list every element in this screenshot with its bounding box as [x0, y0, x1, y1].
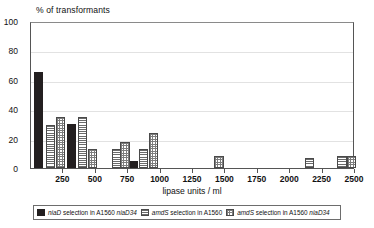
gridline [31, 82, 353, 83]
bar [78, 117, 87, 168]
plot-area [30, 22, 354, 169]
x-tick-label: 750 [120, 174, 134, 184]
x-tick-label: 2000 [280, 174, 299, 184]
x-tick-mark [322, 169, 323, 173]
x-tick-label: 2250 [312, 174, 331, 184]
y-tick-label: 100 [0, 18, 18, 26]
x-tick-mark [354, 169, 355, 173]
x-axis-label: lipase units / ml [30, 186, 354, 196]
bar [120, 142, 129, 168]
legend-item: amdS selection in A1560 niaD34 [226, 209, 329, 216]
bar [347, 156, 356, 168]
gridline [31, 52, 353, 53]
legend-label: amdS selection in A1560 [152, 209, 222, 216]
legend-label: amdS selection in A1560 niaD34 [237, 209, 329, 216]
x-tick-mark [127, 169, 128, 173]
x-tick-mark [224, 169, 225, 173]
x-tick-mark [289, 169, 290, 173]
x-tick-label: 2500 [345, 174, 364, 184]
legend-swatch [37, 209, 45, 216]
legend-item: amdS selection in A1560 [141, 209, 222, 216]
bar [56, 117, 65, 168]
bar [129, 161, 138, 168]
x-tick-label: 1750 [247, 174, 266, 184]
chart-figure: % of transformants 020406080100 25050075… [0, 0, 374, 228]
x-tick-label: 1500 [215, 174, 234, 184]
x-tick-label: 250 [55, 174, 69, 184]
legend-item: niaD selection in A1560 niaD34 [37, 209, 137, 216]
x-tick-mark [62, 169, 63, 173]
x-tick-mark [257, 169, 258, 173]
bar [337, 156, 346, 168]
x-axis: 2505007501000125015001750200022502500 li… [30, 169, 354, 199]
y-tick-label: 40 [0, 106, 18, 114]
x-tick-mark [192, 169, 193, 173]
bar [46, 125, 55, 168]
y-tick-label: 60 [0, 77, 18, 85]
bar [214, 156, 223, 168]
bar [34, 72, 43, 168]
legend-swatch [141, 209, 149, 216]
bar [305, 158, 314, 168]
chart-title: % of transformants [36, 5, 110, 15]
x-tick-label: 500 [88, 174, 102, 184]
gridline [31, 111, 353, 112]
x-tick-label: 1250 [183, 174, 202, 184]
legend-swatch [226, 209, 234, 216]
y-tick-label: 20 [0, 136, 18, 144]
bar [67, 124, 76, 168]
x-tick-mark [95, 169, 96, 173]
y-tick-label: 0 [0, 165, 18, 173]
bar [139, 149, 148, 168]
x-tick-mark [160, 169, 161, 173]
y-tick-label: 80 [0, 47, 18, 55]
bar [149, 133, 158, 168]
bar [88, 149, 97, 168]
legend-label: niaD selection in A1560 niaD34 [48, 209, 137, 216]
x-tick-label: 1000 [150, 174, 169, 184]
chart-legend: niaD selection in A1560 niaD34amdS selec… [33, 205, 341, 220]
